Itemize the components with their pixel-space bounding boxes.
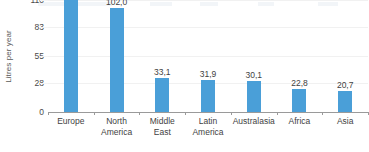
bar-value-label: 31,9 <box>200 69 217 79</box>
x-axis-category-label: LatinAmerica <box>185 116 231 150</box>
bar[interactable] <box>110 8 124 112</box>
bar-value-label: 33,1 <box>154 67 171 77</box>
bar-slot: 30,1 <box>231 0 277 112</box>
x-axis-tick <box>94 112 95 115</box>
bar-slot: 109,9 <box>48 0 94 112</box>
bar-value-label: 22,8 <box>291 78 308 88</box>
x-axis-category-label: Africa <box>277 116 323 150</box>
x-axis-category-labels: EuropeNorthAmericaMiddleEastLatinAmerica… <box>48 116 368 150</box>
x-axis-tick <box>139 112 140 115</box>
bar-slot: 33,1 <box>139 0 185 112</box>
gridline <box>40 83 48 84</box>
x-axis-tick <box>322 112 323 115</box>
bar[interactable] <box>64 0 78 112</box>
bar-slot: 102,0 <box>94 0 140 112</box>
x-axis-category-label-line: America <box>94 127 140 138</box>
x-axis-category-label: NorthAmerica <box>94 116 140 150</box>
gridline-gutter <box>40 0 48 112</box>
x-axis-category-label-line: East <box>139 127 185 138</box>
x-axis-tick <box>231 112 232 115</box>
bar[interactable] <box>247 81 261 112</box>
x-axis-tick <box>48 112 49 115</box>
bar-value-label: 30,1 <box>245 70 262 80</box>
bar-slot: 31,9 <box>185 0 231 112</box>
plot-area: 109,9102,033,131,930,122,820,7 <box>48 0 368 112</box>
x-axis-category-label-line: Latin <box>185 116 231 127</box>
bar-slot: 22,8 <box>277 0 323 112</box>
x-axis-category-label-line: Australasia <box>231 116 277 127</box>
x-axis-category-label-line: America <box>185 127 231 138</box>
bar-value-label: 20,7 <box>337 80 354 90</box>
x-axis-category-label: MiddleEast <box>139 116 185 150</box>
gridline <box>40 56 48 57</box>
x-axis-category-label-line: Asia <box>322 116 368 127</box>
x-axis-category-label-line: Middle <box>139 116 185 127</box>
x-axis-tick <box>185 112 186 115</box>
x-axis-tick <box>277 112 278 115</box>
bar-value-label: 102,0 <box>106 0 127 7</box>
bar[interactable] <box>338 91 352 112</box>
x-axis-category-label: Australasia <box>231 116 277 150</box>
bar-series: 109,9102,033,131,930,122,820,7 <box>48 0 368 112</box>
x-axis-category-label-line: Africa <box>277 116 323 127</box>
y-axis-title-text: Litres per year <box>4 30 13 83</box>
x-axis-category-label: Europe <box>48 116 94 150</box>
gridline <box>40 27 48 28</box>
x-axis-category-label-line: Europe <box>48 116 94 127</box>
bar-slot: 20,7 <box>322 0 368 112</box>
x-axis-category-label: Asia <box>322 116 368 150</box>
gridline <box>40 0 48 1</box>
x-axis-category-label-line: North <box>94 116 140 127</box>
bar[interactable] <box>292 89 306 112</box>
bar[interactable] <box>201 80 215 112</box>
bar[interactable] <box>155 78 169 112</box>
